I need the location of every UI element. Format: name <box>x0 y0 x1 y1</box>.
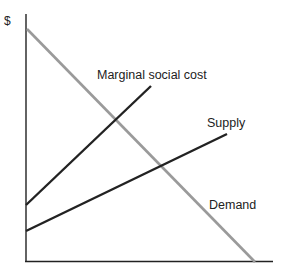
supply-line <box>26 134 227 231</box>
supply-label: Supply <box>207 117 245 130</box>
msc-line <box>26 86 151 205</box>
msc-label: Marginal social cost <box>97 69 207 82</box>
demand-line <box>27 29 255 262</box>
demand-label: Demand <box>209 199 256 212</box>
chart: $ Marginal social cost Supply Demand <box>0 0 285 277</box>
plot-area <box>0 0 285 277</box>
y-axis-label: $ <box>4 15 11 27</box>
